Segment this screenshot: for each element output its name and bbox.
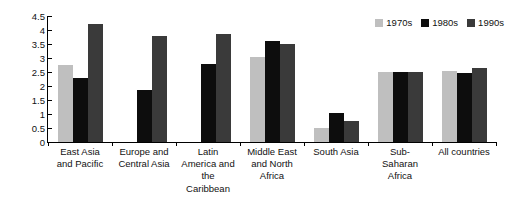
x-axis-category-label: South Asia	[304, 146, 368, 158]
x-axis-category-label-line: Sub-	[368, 146, 432, 158]
x-axis-category-label: East Asiaand Pacific	[48, 146, 112, 170]
bar-group	[240, 16, 304, 142]
x-axis-category-label-line: Middle East	[240, 146, 304, 158]
x-axis-category-label: Middle Eastand NorthAfrica	[240, 146, 304, 183]
x-axis-category-label: LatinAmerica andtheCaribbean	[176, 146, 240, 195]
bar-chart: 1970s1980s1990s 00.511.522.533.544.5 Eas…	[0, 0, 512, 207]
x-axis-category-label-line: America and	[176, 158, 240, 170]
y-axis-tick-label: 2.5	[32, 68, 48, 78]
x-axis-category-label-line: Central Asia	[112, 158, 176, 170]
y-axis-tick-label: 1.5	[32, 96, 48, 106]
x-axis-category-label-line: South Asia	[304, 146, 368, 158]
x-axis-category-label: Europe andCentral Asia	[112, 146, 176, 170]
x-axis-category-label-line: Latin	[176, 146, 240, 158]
bar[interactable]	[314, 128, 329, 142]
bar[interactable]	[250, 57, 265, 142]
y-axis-tick-label: 0.5	[32, 124, 48, 134]
plot-area	[48, 16, 496, 142]
y-axis-tick-label: 3	[40, 54, 48, 64]
x-axis-category-label-line: Africa	[368, 170, 432, 182]
y-axis-tick-label: 3.5	[32, 40, 48, 50]
x-axis-line	[47, 142, 496, 143]
bar[interactable]	[265, 41, 280, 142]
bar[interactable]	[408, 72, 423, 142]
bar[interactable]	[457, 73, 472, 142]
bar[interactable]	[329, 113, 344, 142]
x-axis-category-label-line: the	[176, 170, 240, 182]
bar-group	[368, 16, 432, 142]
bar[interactable]	[393, 72, 408, 142]
bar[interactable]	[442, 71, 457, 142]
x-axis-labels: East Asiaand PacificEurope andCentral As…	[48, 146, 496, 206]
x-axis-category-label-line: Saharan	[368, 158, 432, 170]
x-axis-category-label-line: and Pacific	[48, 158, 112, 170]
bar[interactable]	[201, 64, 216, 142]
x-axis-category-label-line: Africa	[240, 170, 304, 182]
x-axis-category-label-line: East Asia	[48, 146, 112, 158]
bar[interactable]	[152, 36, 167, 142]
y-axis-tick-label: 2	[40, 82, 48, 92]
y-axis-tick-label: 4.5	[32, 12, 48, 22]
x-axis-tick-mark	[496, 142, 497, 146]
x-axis-category-label-line: Europe and	[112, 146, 176, 158]
bar[interactable]	[137, 90, 152, 142]
bar[interactable]	[216, 34, 231, 142]
bar-group	[48, 16, 112, 142]
x-axis-category-label: All countries	[432, 146, 496, 158]
bar[interactable]	[280, 44, 295, 142]
bar[interactable]	[58, 65, 73, 142]
bar-group	[176, 16, 240, 142]
bar[interactable]	[378, 72, 393, 142]
bar[interactable]	[344, 121, 359, 142]
y-axis-tick-label: 0	[40, 138, 48, 148]
y-axis-tick-label: 1	[40, 110, 48, 120]
x-axis-category-label: Sub-SaharanAfrica	[368, 146, 432, 183]
bar-group	[304, 16, 368, 142]
bar-group	[432, 16, 496, 142]
x-axis-category-label-line: All countries	[432, 146, 496, 158]
bar[interactable]	[73, 78, 88, 142]
bar-group	[112, 16, 176, 142]
y-axis-tick-label: 4	[40, 26, 48, 36]
x-axis-category-label-line: and North	[240, 158, 304, 170]
bar[interactable]	[472, 68, 487, 142]
bar[interactable]	[88, 24, 103, 142]
x-axis-category-label-line: Caribbean	[176, 183, 240, 195]
